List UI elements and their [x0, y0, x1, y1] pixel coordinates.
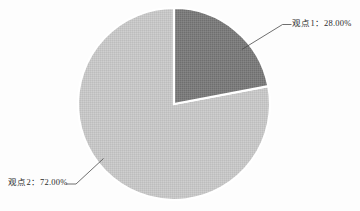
pie-slice-1[interactable]	[174, 8, 268, 104]
pie-chart-figure: 观点1：28.00% 观点2：72.00%	[0, 0, 360, 211]
pie-slice-2-label: 观点2：72.00%	[8, 178, 67, 187]
pie-slice-1-label: 观点1：28.00%	[292, 19, 351, 28]
